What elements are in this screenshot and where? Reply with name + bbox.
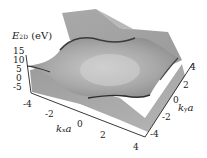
x-tick: 4: [133, 143, 139, 152]
z-axis-unit: (eV): [31, 30, 52, 41]
y-tick: -2: [162, 113, 171, 122]
x-tick: 2: [100, 131, 106, 140]
y-tick: 2: [183, 81, 189, 90]
x-tick: -2: [45, 110, 54, 119]
x-axis-title: kxa: [56, 124, 71, 134]
y-tick: 4: [190, 63, 196, 72]
x-tick: 0: [77, 120, 83, 129]
y-axis-title: kya: [178, 103, 193, 113]
z-axis-title: E2D (eV): [12, 31, 52, 41]
x-tick: -4: [23, 100, 32, 109]
z-axis: [26, 55, 31, 93]
z-axis-subscript: 2D: [19, 33, 28, 40]
y-axis-tail: a: [187, 102, 193, 113]
z-tick: -5: [13, 83, 22, 92]
y-tick: -4: [150, 130, 159, 139]
x-axis-tail: a: [65, 123, 71, 134]
